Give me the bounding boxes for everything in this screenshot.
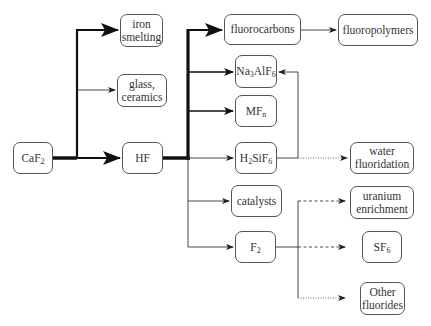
edge-hf-trunk [163,29,190,247]
node-sf6: SF6 [362,231,402,263]
node-mfn: MFn [235,95,277,127]
node-f2: F2 [235,231,276,263]
node-caf2-subscript: 2 [41,157,45,166]
node-water-fluoridation: water fluoridation [350,142,414,174]
node-h2sif6: H2SiF6 [235,142,277,174]
node-glass-ceramics-line1: glass, [122,78,163,91]
node-glass-ceramics-line2: ceramics [122,91,163,104]
edge-f2-branches [276,201,298,298]
node-water-fluoridation-line2: fluoridation [355,158,409,171]
node-na3alf6-part2: AlF [254,65,272,77]
node-caf2: CaF2 [13,142,53,174]
node-caf2-label: CaF [21,152,40,164]
node-fluorocarbons: fluorocarbons [224,14,301,45]
node-na3alf6-sub2: 6 [272,70,276,79]
node-mfn-part1: MF [246,105,263,117]
node-uranium-enrichment-line1: uranium [356,190,408,203]
node-na3alf6: Na3AlF6 [235,55,277,88]
node-sf6-part1: SF [374,241,387,253]
node-fluorocarbons-label: fluorocarbons [231,23,295,36]
node-other-fluorides: Other fluorides [360,282,405,315]
node-h2sif6-sub2: 6 [268,157,272,166]
node-hf: HF [122,142,163,174]
edge-h2sif6-na3alf6 [277,72,298,158]
node-iron-smelting-line2: smelting [122,31,162,44]
node-iron-smelting: iron smelting [120,14,163,47]
node-catalysts-label: catalysts [237,195,277,208]
node-catalysts: catalysts [231,185,282,217]
node-fluoropolymers: fluoropolymers [338,14,418,46]
node-na3alf6-part1: Na [236,65,249,77]
node-uranium-enrichment: uranium enrichment [350,186,414,219]
edge-caf2-iron-smelting [77,30,118,158]
node-hf-label: HF [135,152,150,165]
node-h2sif6-part2: SiF [252,152,268,164]
node-h2sif6-part1: H [240,152,248,164]
node-uranium-enrichment-line2: enrichment [356,203,408,216]
node-iron-smelting-line1: iron [122,18,162,31]
node-f2-sub1: 2 [257,246,261,255]
node-other-fluorides-line2: fluorides [362,299,403,312]
node-glass-ceramics: glass, ceramics [117,74,167,107]
node-water-fluoridation-line1: water [355,145,409,158]
node-mfn-sub1: n [262,110,266,119]
node-other-fluorides-line1: Other [362,286,403,299]
node-sf6-sub1: 6 [386,246,390,255]
node-fluoropolymers-label: fluoropolymers [343,24,414,37]
